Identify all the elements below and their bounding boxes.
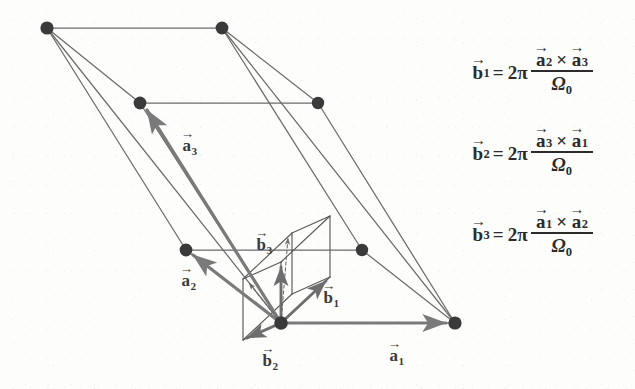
two-pi-coefficient: 2π <box>508 62 528 84</box>
fraction: →a2 × →a3 Ω0 <box>531 50 593 97</box>
numerator: →a3 × →a1 <box>531 131 593 153</box>
equals-sign: = <box>493 62 504 84</box>
lattice-nodes <box>40 21 461 329</box>
lattice-node <box>180 244 193 257</box>
label-b3: →b3 <box>256 235 272 256</box>
denominator: Ω0 <box>552 153 572 178</box>
numerator: →a1 × →a2 <box>531 212 593 234</box>
equals-sign: = <box>493 224 504 246</box>
fraction: →a1 × →a2 Ω0 <box>531 212 593 259</box>
equals-sign: = <box>493 143 504 165</box>
reciprocal-lattice-vectors <box>247 267 326 338</box>
label-b1: →b1 <box>323 288 339 309</box>
equation-b1: →b1 = 2π →a2 × →a3 Ω0 <box>472 50 593 97</box>
lattice-node <box>134 97 147 110</box>
label-a1: →a1 <box>389 346 404 367</box>
denominator: Ω0 <box>552 234 572 259</box>
lattice-node <box>448 316 461 329</box>
lattice-node <box>356 244 368 256</box>
lattice-node <box>216 22 229 35</box>
lattice-node <box>40 21 53 34</box>
fraction: →a3 × →a1 Ω0 <box>531 131 593 178</box>
lattice-node <box>312 97 324 109</box>
label-a2: →a2 <box>181 271 196 292</box>
equation-b2: →b2 = 2π →a3 × →a1 Ω0 <box>472 131 593 178</box>
label-a3: →a3 <box>182 136 197 157</box>
label-b2: →b2 <box>262 351 278 372</box>
vector-a3 <box>147 110 281 323</box>
lattice-node <box>274 316 288 330</box>
direct-lattice-edges <box>47 28 455 323</box>
two-pi-coefficient: 2π <box>508 224 528 246</box>
denominator: Ω0 <box>552 72 572 97</box>
equation-b3: →b3 = 2π →a1 × →a2 Ω0 <box>472 212 593 259</box>
two-pi-coefficient: 2π <box>508 143 528 165</box>
vector-b1 <box>281 281 326 323</box>
vector-a2 <box>193 255 281 323</box>
numerator: →a2 × →a3 <box>531 50 593 72</box>
